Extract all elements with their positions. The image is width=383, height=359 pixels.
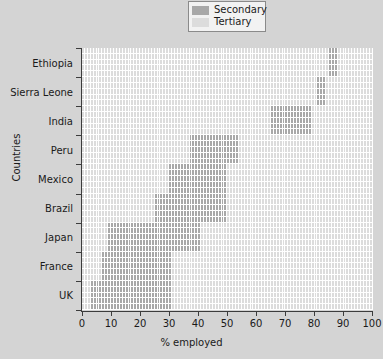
y-tick-label: India xyxy=(48,115,73,126)
country-row xyxy=(82,281,372,310)
y-tick-label: Japan xyxy=(45,232,73,243)
plot-area xyxy=(82,48,372,310)
x-tick-label: 50 xyxy=(221,318,234,329)
x-tick-label: 60 xyxy=(250,318,263,329)
y-tick-label: France xyxy=(40,261,73,272)
y-tick-label: UK xyxy=(59,290,73,301)
x-tick xyxy=(140,311,141,316)
y-tick xyxy=(76,164,82,165)
y-tick xyxy=(76,281,82,282)
y-tick xyxy=(76,48,82,49)
legend-swatch-tertiary xyxy=(192,18,209,27)
y-axis-line xyxy=(81,48,82,311)
country-row xyxy=(82,194,372,223)
legend-label-secondary: Secondary xyxy=(214,4,267,16)
y-tick xyxy=(76,223,82,224)
country-row xyxy=(82,77,372,106)
x-tick-label: 90 xyxy=(337,318,350,329)
y-tick xyxy=(76,135,82,136)
y-tick-label: Sierra Leone xyxy=(10,86,73,97)
x-tick xyxy=(111,311,112,316)
country-row xyxy=(82,223,372,252)
x-tick xyxy=(343,311,344,316)
x-tick xyxy=(314,311,315,316)
x-tick xyxy=(372,311,373,316)
x-tick-label: 10 xyxy=(105,318,118,329)
cell-tertiary xyxy=(370,304,373,310)
y-axis-title: Countries xyxy=(11,118,22,198)
chart-legend: Secondary Tertiary xyxy=(188,1,266,32)
y-tick xyxy=(76,77,82,78)
x-tick-label: 0 xyxy=(79,318,85,329)
country-row xyxy=(82,252,372,281)
y-tick-label: Peru xyxy=(51,144,73,155)
x-tick xyxy=(227,311,228,316)
legend-item-secondary: Secondary xyxy=(192,4,262,16)
x-tick-label: 30 xyxy=(163,318,176,329)
waffle-chart: Secondary Tertiary EthiopiaSierra LeoneI… xyxy=(0,0,383,359)
y-tick-label: Brazil xyxy=(45,203,73,214)
y-tick xyxy=(76,106,82,107)
x-tick-label: 70 xyxy=(279,318,292,329)
legend-label-tertiary: Tertiary xyxy=(214,16,252,28)
x-tick-label: 80 xyxy=(308,318,321,329)
legend-swatch-secondary xyxy=(192,6,209,15)
country-row xyxy=(82,106,372,135)
y-tick xyxy=(76,194,82,195)
country-row xyxy=(82,48,372,77)
x-tick xyxy=(82,311,83,316)
x-tick-label: 100 xyxy=(362,318,381,329)
x-tick xyxy=(285,311,286,316)
y-tick-label: Ethiopia xyxy=(32,57,73,68)
y-tick-label: Mexico xyxy=(38,174,73,185)
x-axis-title: % employed xyxy=(0,337,383,348)
country-row xyxy=(82,164,372,193)
y-tick xyxy=(76,252,82,253)
x-tick-label: 20 xyxy=(134,318,147,329)
x-tick-label: 40 xyxy=(192,318,205,329)
x-tick xyxy=(198,311,199,316)
x-tick xyxy=(169,311,170,316)
legend-item-tertiary: Tertiary xyxy=(192,16,262,28)
x-tick xyxy=(256,311,257,316)
country-row xyxy=(82,135,372,164)
